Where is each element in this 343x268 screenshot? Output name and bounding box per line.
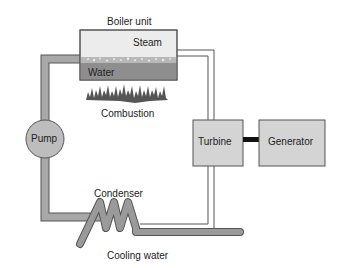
combustion-label: Combustion bbox=[101, 109, 154, 119]
cooling-water-label: Cooling water bbox=[107, 251, 168, 261]
shaft-coupling bbox=[243, 137, 259, 142]
generator-label: Generator bbox=[268, 137, 313, 147]
steam-label: Steam bbox=[133, 38, 162, 48]
condenser-label: Condenser bbox=[94, 189, 143, 199]
turbine-label: Turbine bbox=[198, 137, 232, 147]
pump-label: Pump bbox=[31, 134, 57, 144]
water-label: Water bbox=[88, 68, 114, 78]
condenser-coil bbox=[80, 202, 240, 244]
boiler-unit-label: Boiler unit bbox=[107, 17, 151, 27]
combustion-flames bbox=[86, 84, 168, 103]
